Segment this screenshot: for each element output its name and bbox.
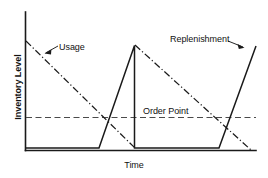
usage-leader-arrow-icon	[45, 50, 52, 55]
y-axis-label: Inventory Level	[13, 39, 23, 135]
chart-canvas	[0, 0, 268, 178]
usage-line-cycle-2	[135, 45, 251, 150]
inventory-level-line	[26, 46, 256, 149]
usage-annotation-label: Usage	[59, 42, 85, 52]
x-axis-label: Time	[0, 160, 268, 170]
order-point-annotation-label: Order Point	[143, 106, 188, 116]
replenishment-leader-arrow-icon	[238, 44, 245, 49]
replenishment-annotation-label: Replenishment	[170, 34, 229, 44]
inventory-cycle-chart: Inventory Level Time Usage Replenishment…	[0, 0, 268, 178]
usage-line-cycle-1	[26, 41, 135, 148]
